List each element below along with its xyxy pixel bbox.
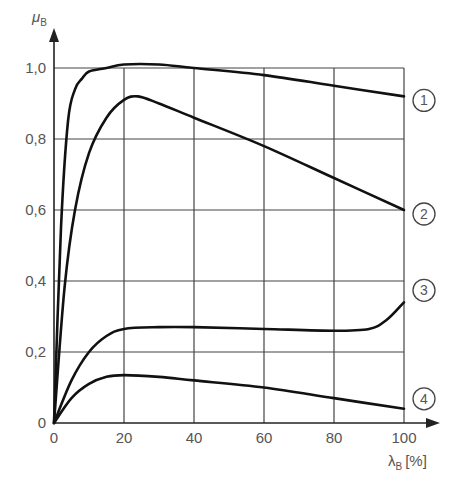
x-tick-label: 100 <box>391 429 416 446</box>
y-tick-label: 0,4 <box>25 272 46 289</box>
x-axis-label: λB[%] <box>388 452 427 472</box>
y-tick-label: 0,6 <box>25 201 46 218</box>
grid-lines <box>54 68 404 423</box>
series-marker-label: 4 <box>420 391 428 407</box>
series-marker-label: 2 <box>420 206 428 222</box>
curve-3 <box>54 302 404 423</box>
x-tick-label: 0 <box>50 429 58 446</box>
y-tick-label: 0 <box>38 414 46 431</box>
x-tick-label: 60 <box>256 429 273 446</box>
x-tick-label: 20 <box>116 429 133 446</box>
y-tick-label: 0,8 <box>25 130 46 147</box>
curve-4 <box>54 375 404 423</box>
x-tick-label: 40 <box>186 429 203 446</box>
x-tick-label: 80 <box>326 429 343 446</box>
y-tick-label: 0,2 <box>25 343 46 360</box>
y-tick-label: 1,0 <box>25 59 46 76</box>
curves <box>54 64 404 423</box>
efficiency-chart: 02040608010000,20,40,60,81,0 1234 μB λB[… <box>0 0 460 495</box>
x-axis-arrow-icon <box>426 418 440 428</box>
series-marker-label: 3 <box>420 282 428 298</box>
axes <box>49 28 440 428</box>
series-marker-label: 1 <box>420 92 428 108</box>
y-axis-label: μB <box>31 8 47 28</box>
curve-2 <box>54 96 404 423</box>
y-axis-arrow-icon <box>49 28 59 42</box>
series-markers: 1234 <box>413 89 435 409</box>
